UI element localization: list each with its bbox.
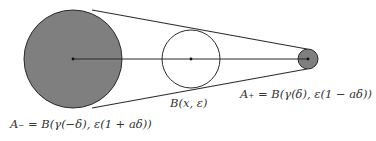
upper-tangent-line bbox=[92, 10, 307, 49]
label-a-plus: A₊ = B(γ(δ), ε(1 − aδ)) bbox=[240, 87, 372, 101]
label-b-x-eps: B(x, ε) bbox=[170, 96, 207, 110]
center-dot-b bbox=[190, 58, 193, 61]
center-dot-a-plus bbox=[307, 58, 310, 61]
label-a-minus: A₋ = B(γ(−δ), ε(1 + aδ)) bbox=[10, 117, 152, 131]
center-dot-a-minus bbox=[72, 58, 75, 61]
